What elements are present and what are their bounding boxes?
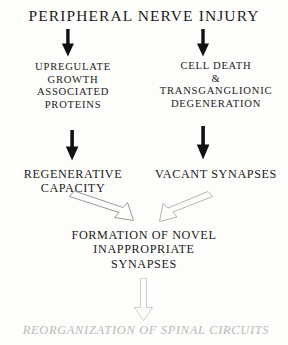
node-reorganization-of-spinal-circuits: REORGANIZATION OF SPINAL CIRCUITS xyxy=(4,323,288,338)
arrow-cell-death-to-vacant-icon xyxy=(197,126,210,160)
node-cell-death-transganglionic-degeneration: CELL DEATH & TRANSGANGLIONIC DEGENERATIO… xyxy=(146,60,286,110)
arrow-formation-to-reorganization-icon xyxy=(135,279,153,321)
arrow-injury-to-upregulate-icon xyxy=(62,29,74,57)
node-regenerative-capacity: REGENERATIVE CAPACITY xyxy=(6,167,140,196)
node-formation-of-novel-inappropriate-synapses: FORMATION OF NOVEL INAPPROPRIATE SYNAPSE… xyxy=(34,228,254,271)
node-peripheral-nerve-injury: PERIPHERAL NERVE INJURY xyxy=(0,7,288,25)
flowchart-diagram: PERIPHERAL NERVE INJURY UPREGULATE GROWT… xyxy=(0,0,288,345)
node-vacant-synapses: VACANT SYNAPSES xyxy=(146,167,286,181)
arrow-upregulate-to-regenerative-icon xyxy=(66,130,79,161)
node-upregulate-growth-associated-proteins: UPREGULATE GROWTH ASSOCIATED PROTEINS xyxy=(10,61,136,111)
arrow-injury-to-cell-death-icon xyxy=(197,29,209,57)
arrow-vacant-to-formation-icon xyxy=(160,192,213,222)
